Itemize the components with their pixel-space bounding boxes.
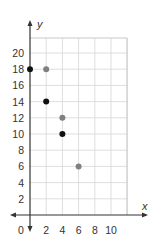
y-tick-label: 14 [12, 96, 24, 108]
x-axis-arrow-left-icon [10, 213, 16, 218]
x-tick-label: 6 [76, 224, 82, 236]
y-tick-label: 10 [12, 128, 24, 140]
x-axis-arrow-right-icon [142, 213, 148, 218]
grid-lines [30, 38, 127, 215]
y-tick-label: 18 [12, 63, 24, 75]
x-tick-label: 2 [43, 224, 49, 236]
tick-labels: 2468102468101214161820 [12, 47, 117, 236]
x-tick-label: 4 [59, 224, 65, 236]
x-tick-label: 10 [105, 224, 117, 236]
y-tick-label: 8 [18, 144, 24, 156]
y-axis-arrow-up-icon [28, 20, 33, 26]
y-tick-label: 6 [18, 160, 24, 172]
data-point [27, 66, 33, 72]
y-tick-label: 20 [12, 47, 24, 59]
scatter-chart: 2468102468101214161820 x y 0 [0, 0, 161, 245]
x-tick-label: 8 [92, 224, 98, 236]
y-axis-arrow-down-icon [28, 226, 33, 232]
y-axis-label: y [36, 18, 44, 30]
data-point [59, 115, 65, 121]
y-tick-label: 4 [18, 177, 24, 189]
data-point [43, 66, 49, 72]
y-tick-label: 2 [18, 193, 24, 205]
data-point [59, 131, 65, 137]
x-axis-label: x [141, 200, 148, 212]
origin-label: 0 [18, 224, 24, 236]
data-point [76, 163, 82, 169]
y-tick-label: 16 [12, 79, 24, 91]
y-tick-label: 12 [12, 112, 24, 124]
data-point [43, 99, 49, 105]
